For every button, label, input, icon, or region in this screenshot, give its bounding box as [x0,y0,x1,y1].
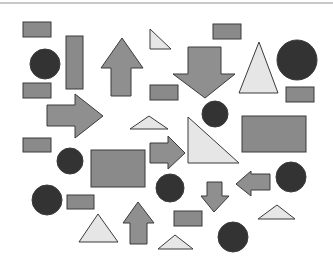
rectangle-shape [213,24,241,39]
triangle-shape [258,205,295,219]
rectangle-shape [23,138,51,152]
circle-shape [32,185,62,215]
rectangle-shape [67,195,94,209]
arrow-left-icon [236,171,270,196]
triangle-shape [79,214,118,242]
rectangle-shape [286,87,314,102]
circle-shape [218,222,248,252]
triangle-shape [130,116,168,129]
rectangle-shape [23,22,51,37]
circle-shape [57,148,83,174]
circle-shape [276,162,306,192]
arrow-up-icon [101,38,143,96]
circle-shape [202,101,228,127]
shapes-layer [0,0,333,264]
arrow-up-icon [123,202,154,244]
circle-shape [277,40,317,80]
rectangle-shape [66,36,83,89]
arrow-down-icon [173,47,235,98]
arrow-right-icon [150,136,185,169]
rectangle-shape [174,211,202,226]
rectangle-shape [242,116,306,152]
triangle-shape [239,42,278,93]
triangle-shape [150,29,171,49]
circle-shape [30,49,60,79]
triangle-shape [158,235,193,249]
arrow-right-icon [47,94,103,138]
rectangle-shape [91,150,145,187]
rectangle-shape [150,85,178,100]
diagram-canvas [0,0,333,264]
arrow-down-icon [201,182,229,212]
rectangle-shape [23,83,51,98]
circle-shape [156,174,184,202]
